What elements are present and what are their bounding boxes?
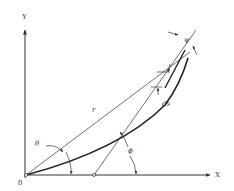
y-axis-label: Y bbox=[22, 14, 27, 21]
radius-line bbox=[26, 52, 190, 175]
origin-label: 0 bbox=[18, 180, 22, 187]
tangent-x-intercept bbox=[93, 174, 96, 177]
phi-arc bbox=[130, 156, 136, 174]
tangent-thick bbox=[165, 50, 185, 88]
psi-arrow-right bbox=[193, 46, 197, 55]
origin-point bbox=[25, 174, 28, 177]
x-axis-label: X bbox=[215, 172, 220, 179]
psi-label: ψ bbox=[184, 37, 190, 44]
diagram-canvas: Y X 0 r θ ϕ ψ ds bbox=[0, 0, 234, 191]
phi-label: ϕ bbox=[128, 148, 133, 155]
ds-label: ds bbox=[162, 101, 170, 108]
radius-label: r bbox=[92, 107, 95, 114]
psi-arrow-left bbox=[168, 32, 178, 35]
theta-label: θ bbox=[35, 141, 39, 148]
diagram-svg bbox=[0, 0, 234, 191]
tangent-line bbox=[94, 30, 196, 175]
